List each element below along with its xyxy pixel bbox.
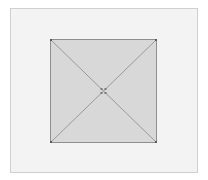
square-diagram [0,0,208,180]
corner-marker-top-left [50,39,52,41]
diagram-canvas [0,0,208,180]
corner-marker-bottom-right [155,141,157,143]
corner-marker-bottom-left [50,141,52,143]
corner-marker-top-right [155,39,157,41]
